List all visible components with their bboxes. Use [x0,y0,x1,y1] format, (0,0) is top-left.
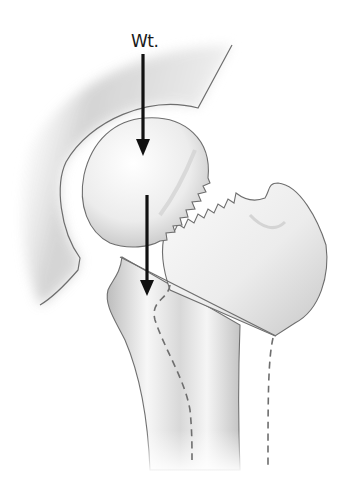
weight-label: Wt. [131,31,158,51]
hip-fracture-diagram [0,0,349,491]
